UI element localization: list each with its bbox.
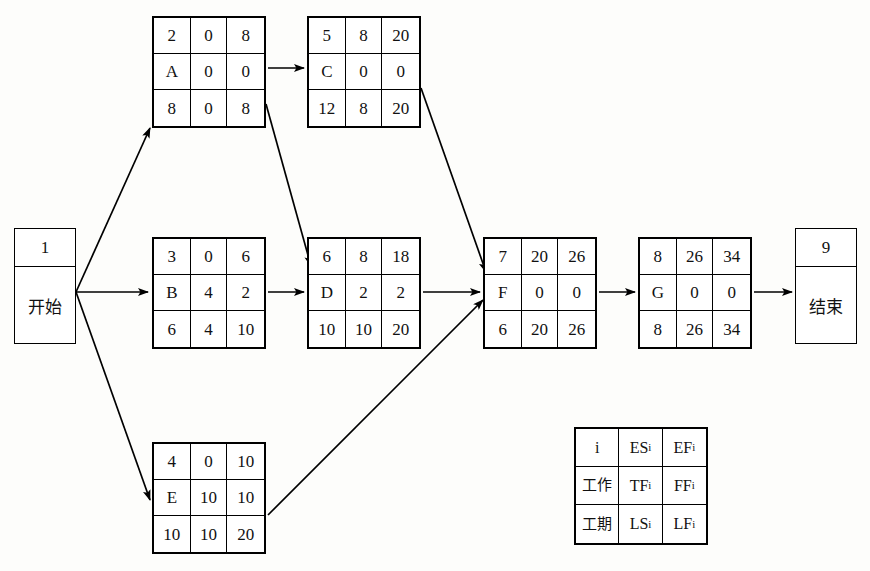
cell-early-start: 0 [191,18,228,54]
cell-early-finish: 10 [227,444,264,480]
cell-node-number: 5 [309,18,346,54]
cell-total-float: 4 [191,275,228,311]
legend-cell-text: ES [630,440,649,456]
activity-node-G: 82634G0082634 [638,237,752,349]
cell-late-finish: 20 [227,516,264,552]
cell-activity-name: C [309,54,346,90]
cell-node-number: 4 [154,444,191,480]
cell-early-start: 20 [522,239,559,275]
cell-total-float: 2 [346,275,383,311]
cell-late-finish: 8 [227,90,264,126]
cell-early-start: 8 [346,239,383,275]
cell-activity-name: D [309,275,346,311]
cell-node-number: 7 [485,239,522,275]
legend-cell-text: LS [630,516,649,532]
legend-cell-3: 工作 [576,467,619,505]
cell-early-finish: 26 [558,239,595,275]
cell-early-finish: 34 [713,239,750,275]
cell-free-float: 0 [713,275,750,311]
cell-duration: 10 [154,516,191,552]
cell-late-finish: 26 [558,311,595,347]
cell-node-number: 3 [154,239,191,275]
legend-cell-text: TF [630,478,649,494]
cell-duration: 6 [485,311,522,347]
cell-free-float: 0 [558,275,595,311]
cell-early-finish: 18 [382,239,419,275]
cell-activity-name: B [154,275,191,311]
terminal-node-start: 1开始 [14,228,76,344]
cell-duration: 6 [154,311,191,347]
cell-early-finish: 8 [227,18,264,54]
cell-activity-name: F [485,275,522,311]
cell-free-float: 0 [227,54,264,90]
cell-late-start: 10 [346,311,383,347]
cell-free-float: 10 [227,480,264,516]
legend-cell-subscript: i [648,480,651,491]
cell-node-number: 2 [154,18,191,54]
cell-late-start: 4 [191,311,228,347]
legend-cell-4: TFi [619,467,662,505]
legend-cell-6: 工期 [576,505,619,543]
cell-late-finish: 10 [227,311,264,347]
terminal-node-end: 9结束 [795,228,857,344]
cell-total-float: 0 [346,54,383,90]
activity-node-F: 72026F0062026 [483,237,597,349]
cell-early-start: 8 [346,18,383,54]
terminal-node-label: 结束 [796,267,856,343]
cell-free-float: 2 [382,275,419,311]
edge-C-to-F [421,88,486,272]
cell-late-start: 8 [346,90,383,126]
legend-cell-8: LFi [663,505,706,543]
cell-total-float: 0 [191,54,228,90]
cell-late-finish: 20 [382,90,419,126]
cell-early-start: 0 [191,239,228,275]
activity-node-D: 6818D22101020 [307,237,421,349]
legend-cell-7: LSi [619,505,662,543]
cell-duration: 10 [309,311,346,347]
edge-start-to-A [76,128,150,292]
legend-cell-text: LF [673,516,692,532]
cell-node-number: 6 [309,239,346,275]
legend-cell-subscript: i [648,442,651,453]
cell-early-finish: 20 [382,18,419,54]
terminal-node-number: 1 [15,229,75,267]
legend-cell-5: FFi [663,467,706,505]
cell-duration: 8 [154,90,191,126]
cell-activity-name: E [154,480,191,516]
cell-late-finish: 34 [713,311,750,347]
cell-late-start: 10 [191,516,228,552]
edge-start-to-E [76,292,150,500]
cell-early-start: 26 [677,239,714,275]
cell-activity-name: A [154,54,191,90]
activity-node-C: 5820C0012820 [307,16,421,128]
cell-activity-name: G [640,275,677,311]
cell-total-float: 0 [677,275,714,311]
cell-total-float: 10 [191,480,228,516]
legend-cell-text: FF [674,478,692,494]
activity-node-B: 306B426410 [152,237,266,349]
cell-late-finish: 20 [382,311,419,347]
edge-A-to-D [266,104,311,266]
cell-late-start: 20 [522,311,559,347]
activity-node-A: 208A00808 [152,16,266,128]
cell-total-float: 0 [522,275,559,311]
legend-cell-subscript: i [648,519,651,530]
legend-cell-subscript: i [692,480,695,491]
terminal-node-label: 开始 [15,267,75,343]
cell-free-float: 2 [227,275,264,311]
legend-cell-1: ESi [619,429,662,467]
terminal-node-number: 9 [796,229,856,267]
legend-cell-text: EF [673,440,692,456]
cell-early-start: 0 [191,444,228,480]
cell-late-start: 26 [677,311,714,347]
network-diagram-canvas: 1开始9结束208A008085820C0012820306B426410681… [0,0,870,571]
cell-duration: 12 [309,90,346,126]
legend-cell-0: i [576,429,619,467]
legend-key-box: iESiEFi工作TFiFFi工期LSiLFi [574,427,708,545]
legend-cell-2: EFi [663,429,706,467]
legend-cell-subscript: i [692,442,695,453]
cell-node-number: 8 [640,239,677,275]
cell-late-start: 0 [191,90,228,126]
cell-early-finish: 6 [227,239,264,275]
cell-free-float: 0 [382,54,419,90]
